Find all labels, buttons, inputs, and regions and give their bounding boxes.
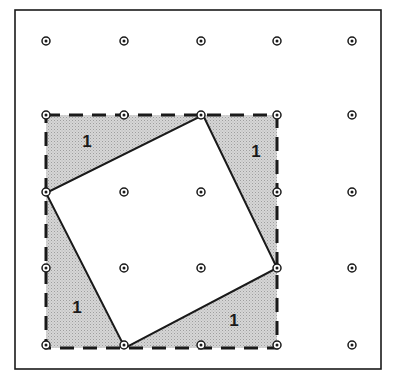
lattice-dot-core-r3-c4 [351, 267, 354, 270]
lattice-dot-core-r3-c2 [200, 267, 203, 270]
lattice-dot-core-r4-c4 [351, 344, 354, 347]
lattice-dot-core-r2-c3 [276, 191, 279, 194]
area-label-bottom-left: 1 [72, 298, 81, 317]
lattice-dot-core-r0-c4 [351, 40, 354, 43]
lattice-dot-core-r0-c1 [123, 40, 126, 43]
lattice-dot-core-r2-c0 [45, 191, 48, 194]
lattice-dot-core-r3-c3 [276, 267, 279, 270]
lattice-dot-core-r4-c3 [276, 344, 279, 347]
lattice-dot-core-r0-c3 [276, 40, 279, 43]
lattice-dot-core-r1-c0 [45, 114, 48, 117]
figure-container: 1 1 1 1 [0, 0, 397, 382]
lattice-dot-core-r1-c1 [123, 114, 126, 117]
lattice-dot-core-r2-c4 [351, 191, 354, 194]
lattice-dot-core-r4-c1 [123, 344, 126, 347]
lattice-dot-core-r2-c2 [200, 191, 203, 194]
lattice-dot-core-r3-c1 [123, 267, 126, 270]
lattice-dot-core-r2-c1 [123, 191, 126, 194]
lattice-dot-core-r4-c0 [45, 344, 48, 347]
lattice-dot-core-r0-c2 [200, 40, 203, 43]
area-label-top-right: 1 [251, 142, 260, 161]
lattice-dot-core-r3-c0 [45, 267, 48, 270]
lattice-dot-core-r1-c2 [200, 114, 203, 117]
lattice-dot-core-r0-c0 [45, 40, 48, 43]
lattice-dot-core-r1-c3 [276, 114, 279, 117]
area-label-bottom-right: 1 [229, 311, 238, 330]
lattice-dot-core-r4-c2 [200, 344, 203, 347]
area-label-top-left: 1 [82, 132, 91, 151]
lattice-dot-core-r1-c4 [351, 114, 354, 117]
geometry-figure: 1 1 1 1 [0, 0, 397, 382]
